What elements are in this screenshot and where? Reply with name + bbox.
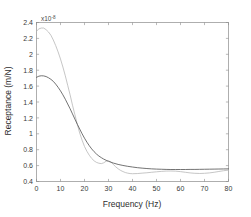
x-tick-label: 20: [81, 185, 89, 192]
y-tick-label: 1: [29, 130, 33, 137]
receptance-chart: 01020304050607080 0.40.60.811.21.41.61.8…: [0, 0, 251, 217]
x-tick-label: 50: [153, 185, 161, 192]
x-tick-label: 30: [105, 185, 113, 192]
y-tick-label: 2: [29, 51, 33, 58]
y-tick-label: 0.4: [23, 178, 33, 185]
y-axis-tick-labels: 0.40.60.811.21.41.61.822.22.4: [23, 19, 33, 185]
y-tick-label: 0.6: [23, 162, 33, 169]
x-axis-ticks: [37, 23, 229, 182]
y-tick-label: 1.2: [23, 115, 33, 122]
y-tick-label: 1.6: [23, 83, 33, 90]
y-tick-label: 1.4: [23, 99, 33, 106]
x-axis-tick-labels: 01020304050607080: [35, 185, 233, 192]
y-tick-label: 2.4: [23, 19, 33, 26]
x-tick-label: 70: [201, 185, 209, 192]
x-tick-label: 60: [177, 185, 185, 192]
y-tick-label: 0.8: [23, 146, 33, 153]
x-tick-label: 0: [35, 185, 39, 192]
y-axis-title: Receptance (m/N): [3, 66, 13, 135]
x-tick-label: 10: [57, 185, 65, 192]
x-tick-label: 80: [225, 185, 233, 192]
series-measured-receptance: [37, 28, 229, 174]
plot-frame: [37, 23, 229, 182]
series-predicted-receptance: [37, 76, 229, 170]
y-tick-label: 1.8: [23, 67, 33, 74]
x-axis-title: Frequency (Hz): [103, 199, 162, 209]
x-tick-label: 40: [129, 185, 137, 192]
exponent-superscript: -8: [51, 15, 56, 20]
y-axis-ticks: [37, 23, 229, 182]
y-tick-label: 2.2: [23, 35, 33, 42]
figure-canvas: 01020304050607080 0.40.60.811.21.41.61.8…: [0, 0, 251, 217]
y-axis-exponent: x10-8: [41, 15, 56, 22]
data-series-group: [37, 28, 229, 174]
